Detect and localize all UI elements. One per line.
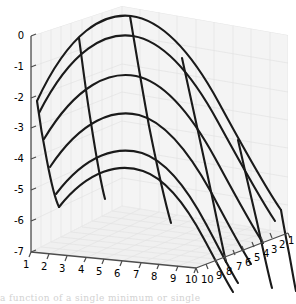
x-tick-label-8: 8 <box>151 272 157 282</box>
z-tick-label-2: -2 <box>2 93 24 103</box>
z-tick-label-1: -1 <box>2 62 24 72</box>
x-tick-label-6: 6 <box>114 269 120 279</box>
z-tick-label-6: -6 <box>2 216 24 226</box>
figure-caption: a function of a single minimum or single <box>0 292 296 304</box>
x-tick-label-7: 7 <box>133 270 139 280</box>
y-tick-label-8: 8 <box>226 267 232 277</box>
y-tick-label-4: 4 <box>263 249 269 259</box>
x-tick-label-1: 1 <box>23 260 29 270</box>
x-tick-label-3: 3 <box>59 264 65 274</box>
y-tick-label-9: 9 <box>216 271 222 281</box>
plot-canvas <box>0 0 296 304</box>
y-tick-label-10: 10 <box>201 275 214 285</box>
z-tick-label-0: 0 <box>2 31 24 41</box>
figure-3d-surface-plot: 0 -1 -2 -3 -4 -5 -6 -7 1 2 3 4 5 6 7 8 9… <box>0 0 296 304</box>
y-tick-label-1: 1 <box>288 236 294 246</box>
z-tick-label-4: -4 <box>2 154 24 164</box>
x-tick-label-4: 4 <box>78 265 84 275</box>
x-tick-label-2: 2 <box>41 262 47 272</box>
z-tick-label-3: -3 <box>2 123 24 133</box>
z-tick-label-5: -5 <box>2 185 24 195</box>
y-tick-label-5: 5 <box>254 253 260 263</box>
y-tick-label-7: 7 <box>236 262 242 272</box>
axes-panes <box>31 6 288 268</box>
z-tick-label-7: -7 <box>2 247 24 257</box>
x-tick-label-5: 5 <box>96 267 102 277</box>
x-tick-label-10: 10 <box>185 275 198 285</box>
y-tick-label-3: 3 <box>271 245 277 255</box>
x-tick-label-9: 9 <box>170 274 176 284</box>
y-tick-label-6: 6 <box>245 258 251 268</box>
mesh-line-x6 <box>281 210 296 291</box>
y-tick-label-2: 2 <box>279 240 285 250</box>
